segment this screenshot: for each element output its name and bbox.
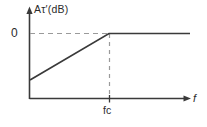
y-axis	[26, 7, 32, 100]
x-axis-arrowhead	[184, 95, 192, 101]
bode-magnitude-plot: Aτ′(dB) 0 f fc	[0, 0, 207, 127]
cutoff-frequency-tick-label: fc	[103, 105, 111, 116]
y-axis-zero-tick-label: 0	[11, 27, 18, 39]
x-axis-label: f	[193, 93, 196, 104]
response-curve	[30, 34, 190, 81]
y-axis-label: Aτ′(dB)	[34, 4, 68, 15]
x-axis	[30, 95, 192, 101]
y-axis-arrowhead	[26, 7, 32, 15]
